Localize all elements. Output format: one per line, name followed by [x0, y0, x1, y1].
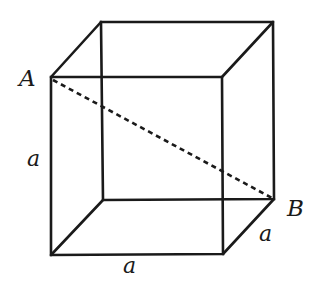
label-edge-bottom: a: [123, 255, 136, 277]
label-edge-depth: a: [259, 223, 272, 245]
label-point-a: A: [19, 67, 36, 90]
label-edge-vertical: a: [27, 148, 40, 170]
diagonal-ab: [53, 80, 272, 198]
edge-top-right: [222, 22, 273, 77]
cube-diagram: A a a a B: [0, 0, 318, 290]
edge-bottom-left: [51, 200, 103, 255]
cube-drawing: [0, 0, 318, 290]
edge-top-left: [51, 22, 101, 77]
label-point-b: B: [287, 197, 304, 220]
